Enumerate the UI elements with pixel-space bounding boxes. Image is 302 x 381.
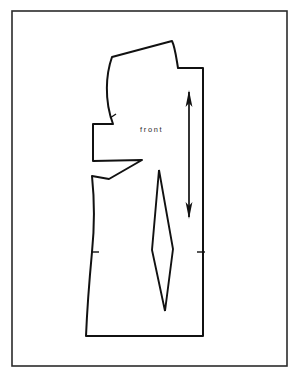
pattern-drawing-canvas: front [0, 0, 302, 381]
page-border [12, 11, 287, 366]
piece-label-front: front [140, 125, 163, 134]
pattern-diagram-page: front [0, 0, 302, 381]
